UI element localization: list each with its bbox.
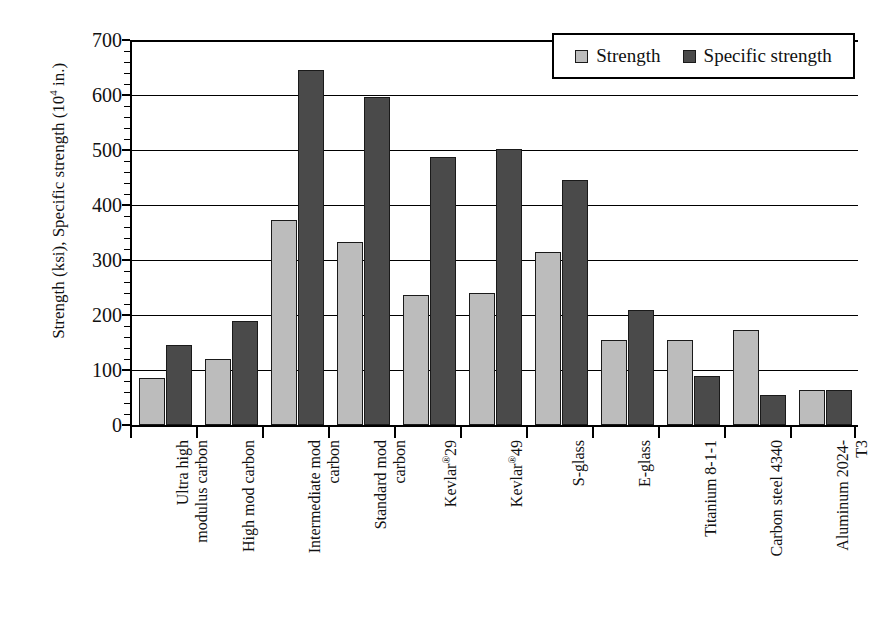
bar-group <box>726 40 792 425</box>
bar-strength <box>469 293 495 425</box>
y-axis-tick-label: 200 <box>64 304 122 327</box>
bar-group <box>594 40 660 425</box>
x-axis-category-label: E-glass <box>635 440 654 610</box>
bar-specific-strength <box>166 345 192 425</box>
bar-specific-strength <box>694 376 720 426</box>
plot-area <box>130 40 858 427</box>
y-axis-tick-label: 400 <box>64 194 122 217</box>
x-axis-tick <box>526 427 528 438</box>
bar-strength <box>535 252 561 425</box>
bar-group <box>660 40 726 425</box>
x-axis-category-label: Aluminum 2024-T3 <box>833 440 870 610</box>
bar-specific-strength <box>496 149 522 425</box>
x-axis-category-label: S-glass <box>569 440 588 610</box>
bar-strength <box>337 242 363 425</box>
x-axis-category-label: Carbon steel 4340 <box>767 440 786 610</box>
x-axis-tick <box>130 427 132 438</box>
chart-page: Strength (ksi), Specific strength (104 i… <box>0 0 870 625</box>
x-axis-category-label: Intermediate modcarbon <box>305 440 343 610</box>
x-axis-tick <box>790 427 792 438</box>
bar-strength <box>403 295 429 425</box>
bar-group <box>462 40 528 425</box>
x-axis-tick <box>658 427 660 438</box>
y-axis-tick-label: 500 <box>64 139 122 162</box>
y-axis-tick-label: 300 <box>64 249 122 272</box>
bar-strength <box>271 220 297 425</box>
x-axis-tick <box>196 427 198 438</box>
chart-legend: Strength Specific strength <box>552 33 855 79</box>
bar-group <box>330 40 396 425</box>
x-axis-category-label: Ultra highmodulus carbon <box>173 440 211 610</box>
bar-specific-strength <box>760 395 786 425</box>
legend-label-specific-strength: Specific strength <box>704 45 832 67</box>
bar-specific-strength <box>364 97 390 425</box>
bar-strength <box>799 390 825 425</box>
x-axis-tick <box>854 427 856 438</box>
x-axis-tick <box>394 427 396 438</box>
y-axis-title-exponent: 4 <box>47 90 59 96</box>
legend-item-strength: Strength <box>575 45 660 67</box>
x-axis-category-labels: Ultra highmodulus carbonHigh mod carbonI… <box>130 440 856 620</box>
bar-specific-strength <box>826 390 852 425</box>
bar-strength <box>205 359 231 425</box>
x-axis-ticks <box>130 427 856 438</box>
bar-specific-strength <box>628 310 654 425</box>
x-axis-tick <box>328 427 330 438</box>
light-gray-swatch-icon <box>575 50 588 63</box>
bar-specific-strength <box>298 70 324 425</box>
legend-item-specific-strength: Specific strength <box>683 45 832 67</box>
bar-specific-strength <box>232 321 258 426</box>
x-axis-tick <box>724 427 726 438</box>
y-axis-tick-labels: 7006005004003002001000 <box>60 40 122 425</box>
y-axis-tick-label: 700 <box>64 29 122 52</box>
bar-group <box>132 40 198 425</box>
bar-strength <box>667 340 693 425</box>
dark-gray-swatch-icon <box>683 50 696 63</box>
y-axis-tick-label: 0 <box>64 414 122 437</box>
bar-group <box>528 40 594 425</box>
bar-group <box>198 40 264 425</box>
bar-group <box>264 40 330 425</box>
x-axis-category-label: Standard modcarbon <box>371 440 409 610</box>
bar-specific-strength <box>562 180 588 425</box>
y-axis-tick-label: 600 <box>64 84 122 107</box>
bar-series-container <box>132 40 858 425</box>
bar-group <box>792 40 858 425</box>
x-axis-tick <box>592 427 594 438</box>
bar-specific-strength <box>430 157 456 425</box>
x-axis-category-label: Kevlar®49 <box>503 440 526 610</box>
x-axis-category-label: High mod carbon <box>239 440 258 610</box>
bar-group <box>396 40 462 425</box>
legend-label-strength: Strength <box>596 45 660 67</box>
x-axis-category-label: Kevlar®29 <box>437 440 460 610</box>
x-axis-tick <box>460 427 462 438</box>
x-axis-tick <box>262 427 264 438</box>
bar-strength <box>601 340 627 425</box>
x-axis-category-label: Titanium 8-1-1 <box>701 440 720 610</box>
bar-strength <box>733 330 759 425</box>
y-axis-minor-ticks <box>123 40 130 425</box>
y-axis-tick-label: 100 <box>64 359 122 382</box>
bar-strength <box>139 378 165 425</box>
